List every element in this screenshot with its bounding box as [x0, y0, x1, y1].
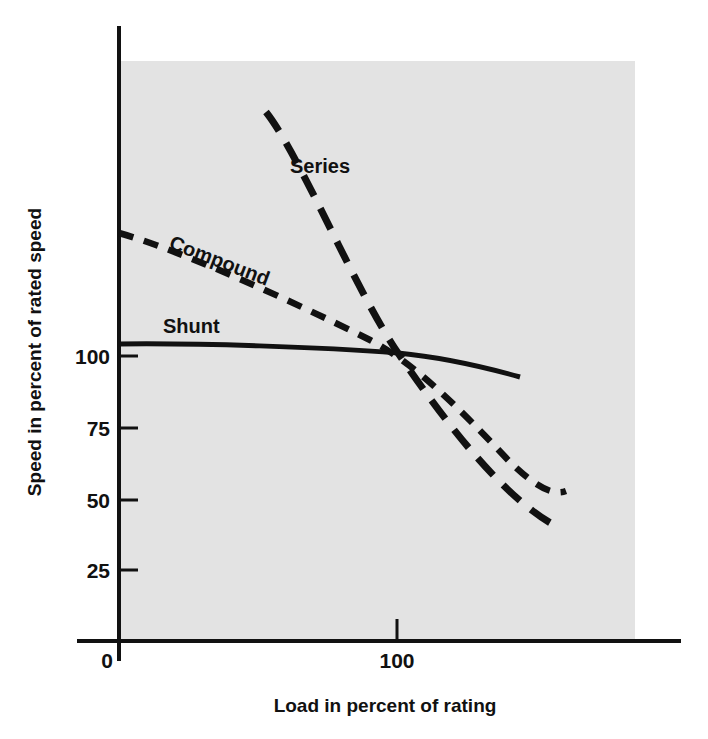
speed-load-chart: 100 75 50 25 0 100 Load in percent of ra… [0, 0, 708, 739]
y-tick-label-75: 75 [87, 417, 111, 440]
y-axis-title: Speed in percent of rated speed [24, 208, 45, 496]
y-tick-label-100: 100 [75, 345, 110, 368]
curve-label-shunt: Shunt [163, 315, 220, 337]
x-tick-label-0: 0 [101, 649, 113, 672]
figure-container: 100 75 50 25 0 100 Load in percent of ra… [0, 0, 708, 739]
y-tick-label-50: 50 [87, 489, 110, 512]
x-axis-title: Load in percent of rating [274, 695, 497, 716]
curve-label-series: Series [290, 155, 350, 177]
y-tick-label-25: 25 [87, 559, 111, 582]
x-tick-label-100: 100 [379, 649, 414, 672]
